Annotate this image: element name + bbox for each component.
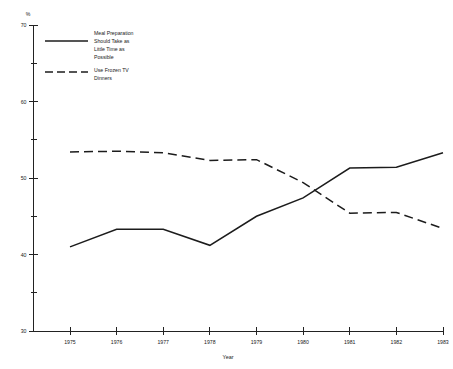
x-axis-ticks: 197519761977197819791980198119821983: [64, 327, 449, 345]
x-tick-label: 1981: [344, 339, 356, 345]
x-tick-label: 1979: [251, 339, 263, 345]
y-tick-label: 40: [21, 252, 27, 258]
y-tick-label: 50: [21, 175, 27, 181]
x-tick-label: 1975: [64, 339, 76, 345]
y-tick-label: 70: [21, 22, 27, 28]
legend-label-line: Dinners: [94, 75, 112, 81]
legend-label-line: Little Time as: [94, 46, 125, 52]
x-tick-label: 1978: [204, 339, 216, 345]
series-line-meal-preparation: [70, 153, 443, 247]
x-tick-label: 1983: [437, 339, 449, 345]
legend-label-line: Possible: [94, 54, 114, 60]
x-tick-label: 1982: [391, 339, 403, 345]
legend-label-line: Use Frozen TV: [94, 67, 129, 73]
y-tick-label: 30: [21, 328, 27, 334]
legend-label-line: Should Take as: [94, 38, 130, 44]
legend-label-line: Meal Preparation: [94, 30, 134, 36]
x-tick-label: 1980: [297, 339, 309, 345]
y-tick-label: 60: [21, 99, 27, 105]
chart-canvas: 3040506070 19751976197719781979198019811…: [0, 0, 453, 369]
chart-legend: Meal Preparation Should Take as Little T…: [45, 30, 134, 81]
y-axis-unit-label: %: [26, 11, 31, 17]
x-tick-label: 1976: [111, 339, 123, 345]
x-axis-title: Year: [223, 354, 234, 360]
y-axis-ticks: 3040506070: [21, 22, 38, 334]
x-tick-label: 1977: [157, 339, 169, 345]
line-chart: 3040506070 19751976197719781979198019811…: [0, 0, 453, 369]
